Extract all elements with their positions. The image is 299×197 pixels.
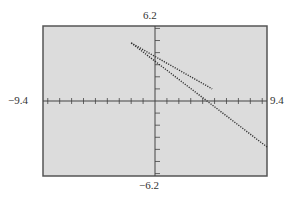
ymin-label: −6.2 [139, 180, 159, 191]
xmin-label: −9.4 [8, 95, 28, 106]
graph-plot [0, 0, 299, 197]
xmax-label: 9.4 [270, 95, 284, 106]
ymax-label: 6.2 [143, 10, 157, 21]
